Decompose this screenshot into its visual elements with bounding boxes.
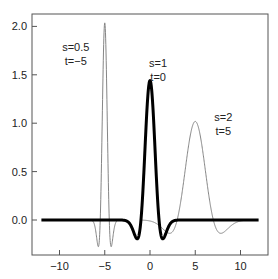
- annotation-label: s=1: [149, 57, 167, 69]
- annotation-label: t=5: [216, 125, 232, 137]
- wavelet-chart: −10−50510 0.00.51.01.52.0 s=0.5t=−5s=1t=…: [0, 0, 278, 279]
- annotation-label: s=0.5: [62, 41, 89, 53]
- y-axis-ticks: 0.00.51.01.52.0: [12, 20, 37, 226]
- x-axis-ticks: −10−50510: [50, 250, 246, 272]
- x-tick-label: 0: [147, 260, 153, 272]
- x-tick-label: 5: [192, 260, 198, 272]
- y-tick-label: 2.0: [12, 20, 27, 32]
- x-tick-label: −5: [98, 260, 111, 272]
- annotation-label: t=0: [150, 71, 166, 83]
- curve-s-0-5-t-5: [87, 23, 123, 247]
- annotation-label: t=−5: [65, 55, 87, 67]
- annotation-label: s=2: [214, 111, 232, 123]
- y-tick-label: 0.0: [12, 214, 27, 226]
- x-tick-label: 10: [234, 260, 246, 272]
- curve-s-1-t-0: [41, 81, 258, 239]
- x-tick-label: −10: [50, 260, 69, 272]
- y-tick-label: 0.5: [12, 166, 27, 178]
- y-tick-label: 1.0: [12, 117, 27, 129]
- y-tick-label: 1.5: [12, 69, 27, 81]
